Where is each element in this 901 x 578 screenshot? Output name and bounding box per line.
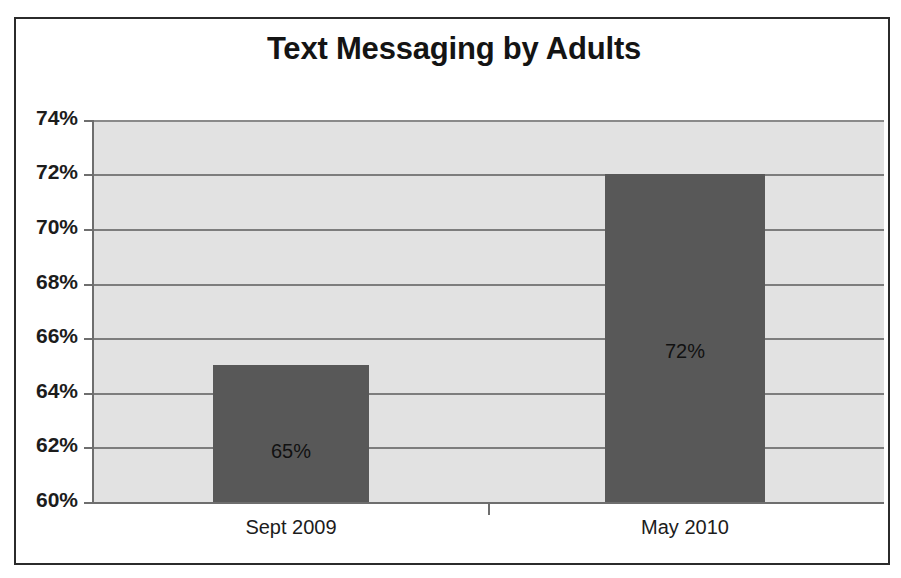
chart-frame: Text Messaging by Adults 65% 72% 74% 72%… (14, 17, 890, 565)
gridline-72 (94, 174, 884, 176)
bar-value-may-2010: 72% (605, 340, 765, 363)
bar-value-sept-2009: 65% (213, 440, 369, 463)
y-tick-62 (84, 447, 94, 449)
y-axis-label-64: 64% (16, 379, 78, 403)
y-axis-label-60: 60% (16, 488, 78, 512)
y-tick-74 (84, 120, 94, 122)
y-axis-label-62: 62% (16, 433, 78, 457)
bar-sept-2009: 65% (213, 365, 369, 502)
x-axis-label-may-2010: May 2010 (585, 516, 785, 539)
y-tick-70 (84, 229, 94, 231)
y-axis-label-72: 72% (16, 160, 78, 184)
gridline-74 (94, 120, 884, 122)
gridline-68 (94, 284, 884, 286)
gridline-66 (94, 338, 884, 340)
y-tick-72 (84, 174, 94, 176)
y-axis-label-66: 66% (16, 324, 78, 348)
y-tick-60 (84, 502, 94, 504)
x-axis-label-sept-2009: Sept 2009 (191, 516, 391, 539)
y-axis-label-68: 68% (16, 270, 78, 294)
y-tick-66 (84, 338, 94, 340)
x-axis-category-tick (488, 504, 490, 515)
chart-title: Text Messaging by Adults (16, 31, 892, 67)
gridline-70 (94, 229, 884, 231)
y-tick-68 (84, 284, 94, 286)
y-tick-64 (84, 393, 94, 395)
y-axis-label-70: 70% (16, 215, 78, 239)
y-axis-label-74: 74% (16, 106, 78, 130)
bar-may-2010: 72% (605, 174, 765, 502)
plot-area: 65% 72% (94, 120, 884, 502)
